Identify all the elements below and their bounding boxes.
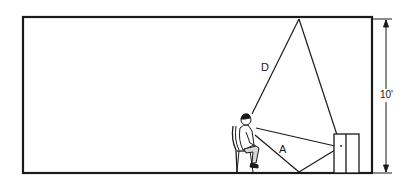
seated-person-icon xyxy=(232,114,259,172)
label-a: A xyxy=(279,144,286,155)
room-outline xyxy=(23,17,372,173)
speaker-dot-icon xyxy=(340,145,342,147)
label-height: 10' xyxy=(380,90,393,100)
arrow-up-icon xyxy=(384,20,389,27)
path-d-lines xyxy=(252,19,339,141)
path-a-lines xyxy=(255,128,335,172)
speaker-cabinet xyxy=(334,134,359,173)
arrow-down-icon xyxy=(384,165,389,172)
label-d: D xyxy=(261,62,269,73)
room-diagram xyxy=(0,0,413,190)
